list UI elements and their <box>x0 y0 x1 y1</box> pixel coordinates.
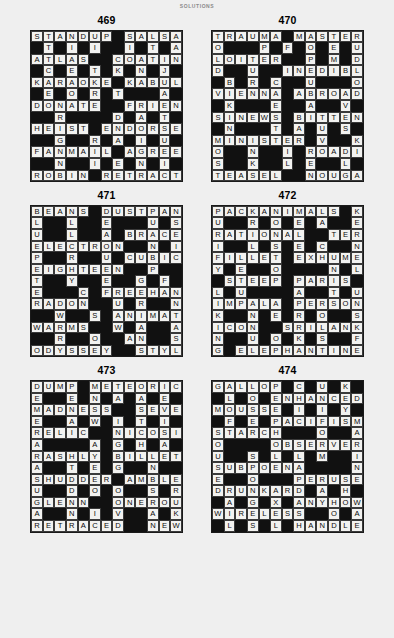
block-cell <box>224 264 236 276</box>
block-cell <box>43 112 55 124</box>
block-cell <box>101 497 113 509</box>
block-cell <box>259 287 271 299</box>
letter-cell: B <box>224 77 236 89</box>
letter-cell: K <box>351 322 363 334</box>
block-cell <box>305 241 317 253</box>
block-cell <box>78 88 90 100</box>
letter-cell: K <box>89 77 101 89</box>
block-cell <box>351 275 363 287</box>
letter-cell: U <box>31 485 43 497</box>
block-cell <box>270 158 282 170</box>
block-cell <box>112 345 124 357</box>
letter-cell: A <box>159 206 171 218</box>
block-cell <box>328 485 340 497</box>
letter-cell: P <box>31 252 43 264</box>
block-cell <box>124 322 136 334</box>
letter-cell: N <box>247 322 259 334</box>
letter-cell: N <box>147 462 159 474</box>
crossword-grid[interactable]: TRAUMAMASTEROPFOEULOITERPMDDUINEDIBLBRCU… <box>211 30 364 183</box>
letter-cell: K <box>212 310 224 322</box>
letter-cell: U <box>159 135 171 147</box>
letter-cell: S <box>282 322 294 334</box>
letter-cell: U <box>316 123 328 135</box>
letter-cell: N <box>282 393 294 405</box>
letter-cell: E <box>170 123 182 135</box>
block-cell <box>235 333 247 345</box>
letter-cell: S <box>212 427 224 439</box>
block-cell <box>224 146 236 158</box>
crossword-grid[interactable]: BEANSDUSTPANLLEUSULABRACEELECTRONNIPRUCU… <box>30 205 183 358</box>
block-cell <box>259 439 271 451</box>
block-cell <box>89 206 101 218</box>
letter-cell: N <box>340 345 352 357</box>
letter-cell: I <box>159 158 171 170</box>
letter-cell: A <box>270 31 282 43</box>
letter-cell: E <box>78 404 90 416</box>
block-cell <box>43 393 55 405</box>
letter-cell: A <box>159 310 171 322</box>
block-cell <box>43 416 55 428</box>
letter-cell: T <box>212 31 224 43</box>
letter-cell: E <box>89 345 101 357</box>
letter-cell: D <box>31 381 43 393</box>
letter-cell: A <box>293 123 305 135</box>
puzzle-grid-container: 469 STANDUPSALSATIIITAATLASCOATINCETKNJK… <box>0 10 394 540</box>
letter-cell: D <box>66 485 78 497</box>
block-cell <box>316 287 328 299</box>
puzzle-470: 470 TRAUMAMASTEROPFOEULOITERPMDDUINEDIBL… <box>206 14 369 182</box>
block-cell <box>101 42 113 54</box>
letter-cell: T <box>112 381 124 393</box>
letter-cell: K <box>247 206 259 218</box>
letter-cell: L <box>135 451 147 463</box>
block-cell <box>235 451 247 463</box>
block-cell <box>224 345 236 357</box>
letter-cell: I <box>147 100 159 112</box>
block-cell <box>54 485 66 497</box>
letter-cell: E <box>124 381 136 393</box>
letter-cell: O <box>112 485 124 497</box>
letter-cell: L <box>235 381 247 393</box>
block-cell <box>43 439 55 451</box>
letter-cell: L <box>224 520 236 532</box>
letter-cell: H <box>135 439 147 451</box>
letter-cell: I <box>351 451 363 463</box>
letter-cell: O <box>135 123 147 135</box>
letter-cell: L <box>147 451 159 463</box>
letter-cell: O <box>270 333 282 345</box>
crossword-grid[interactable]: STANDUPSALSATIIITAATLASCOATINCETKNJKARAO… <box>30 30 183 183</box>
letter-cell: D <box>212 65 224 77</box>
block-cell <box>340 427 352 439</box>
block-cell <box>54 217 66 229</box>
letter-cell: O <box>270 439 282 451</box>
block-cell <box>235 520 247 532</box>
letter-cell: M <box>212 404 224 416</box>
letter-cell: N <box>147 241 159 253</box>
crossword-grid[interactable]: DUMPMETEORICEENAAEMADNESSSEVEEAWITIRELIC… <box>30 380 183 533</box>
letter-cell: T <box>170 170 182 182</box>
block-cell <box>340 333 352 345</box>
crossword-grid[interactable]: GALLOPCUKLOENHANCEDMOUSSEIIYFEPACIFISMST… <box>211 380 364 533</box>
letter-cell: D <box>351 88 363 100</box>
block-cell <box>78 462 90 474</box>
letter-cell: A <box>66 77 78 89</box>
block-cell <box>293 427 305 439</box>
letter-cell: R <box>247 77 259 89</box>
letter-cell: R <box>66 520 78 532</box>
block-cell <box>124 439 136 451</box>
letter-cell: S <box>78 54 90 66</box>
letter-cell: A <box>351 427 363 439</box>
letter-cell: L <box>259 508 271 520</box>
letter-cell: U <box>43 381 55 393</box>
letter-cell: E <box>101 520 113 532</box>
letter-cell: O <box>43 100 55 112</box>
block-cell <box>270 65 282 77</box>
block-cell <box>282 264 294 276</box>
block-cell <box>259 65 271 77</box>
crossword-grid[interactable]: PACKANIMALSKUROEAERATIONALTERILSECNFILLE… <box>211 205 364 358</box>
letter-cell: E <box>247 275 259 287</box>
block-cell <box>159 508 171 520</box>
block-cell <box>89 229 101 241</box>
letter-cell: E <box>305 474 317 486</box>
letter-cell: Y <box>340 404 352 416</box>
letter-cell: D <box>54 298 66 310</box>
